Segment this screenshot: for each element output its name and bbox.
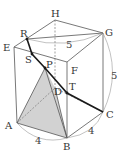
dim-gc: 5 bbox=[111, 70, 117, 81]
label-F: F bbox=[71, 65, 78, 76]
label-H: H bbox=[51, 8, 60, 19]
label-R: R bbox=[20, 28, 28, 39]
label-B: B bbox=[63, 141, 70, 152]
geometry-figure: H R G E S P F D T A B C 5 5 4 4 bbox=[0, 0, 122, 152]
dim-ab: 4 bbox=[35, 135, 41, 146]
shaded-face bbox=[17, 68, 67, 138]
point-T bbox=[66, 92, 69, 95]
dim-bc: 4 bbox=[88, 125, 94, 136]
label-T: T bbox=[69, 81, 76, 92]
dim-rg: 5 bbox=[66, 39, 72, 50]
label-P: P bbox=[46, 59, 53, 70]
label-E: E bbox=[3, 42, 10, 53]
label-C: C bbox=[106, 109, 114, 120]
label-S: S bbox=[25, 54, 32, 65]
label-A: A bbox=[4, 120, 13, 131]
label-D: D bbox=[54, 86, 62, 97]
label-G: G bbox=[105, 27, 113, 38]
